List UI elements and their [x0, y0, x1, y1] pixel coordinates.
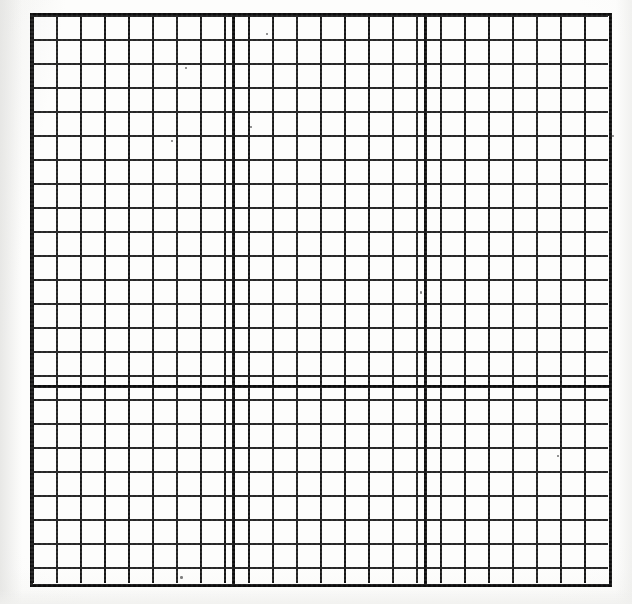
scan-edge-shadow-right — [616, 0, 632, 604]
graph-grid — [32, 15, 608, 583]
graph-paper-page — [0, 0, 632, 604]
scan-edge-shadow-left — [0, 0, 22, 604]
scan-edge-shadow-bottom — [0, 590, 632, 604]
grid-outer-border — [30, 13, 612, 587]
